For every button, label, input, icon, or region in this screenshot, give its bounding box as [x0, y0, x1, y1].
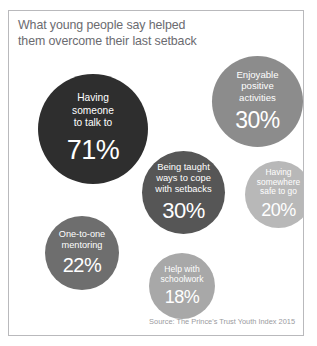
bubble-help-with-schoolwork: Help with schoolwork18%: [149, 253, 215, 319]
bubble-value: 30%: [235, 107, 280, 134]
source-attribution: Source: The Prince's Trust Youth Index 2…: [149, 317, 295, 326]
bubble-label: Help with schoolwork: [161, 264, 204, 284]
bubble-label: Being taught ways to cope with setbacks: [155, 161, 211, 195]
bubble-label: Enjoyable positive activities: [236, 69, 278, 104]
page-title: What young people say helped them overco…: [18, 18, 268, 49]
bubble-value: 71%: [67, 135, 120, 166]
bubble-value: 22%: [63, 254, 102, 277]
infographic-panel: What young people say helped them overco…: [8, 10, 304, 336]
title-line-2: them overcome their last setback: [18, 34, 268, 50]
title-line-1: What young people say helped: [18, 18, 268, 34]
bubble-value: 18%: [165, 287, 200, 308]
bubble-being-taught-ways-to-cope-with-setbacks: Being taught ways to cope with setbacks3…: [142, 151, 225, 234]
bubble-having-somewhere-safe-to-go: Having somewhere safe to go20%: [245, 161, 304, 228]
bubble-having-someone-to-talk-to: Having someone to talk to71%: [38, 74, 148, 184]
bubble-value: 30%: [162, 198, 205, 224]
bubble-enjoyable-positive-activities: Enjoyable positive activities30%: [212, 56, 303, 147]
bubble-label: Having someone to talk to: [72, 92, 114, 130]
bubble-value: 20%: [261, 200, 296, 221]
bubble-one-to-one-mentoring: One-to-one mentoring22%: [45, 216, 119, 290]
bubble-label: Having somewhere safe to go: [257, 168, 300, 197]
bubble-label: One-to-one mentoring: [59, 229, 105, 251]
